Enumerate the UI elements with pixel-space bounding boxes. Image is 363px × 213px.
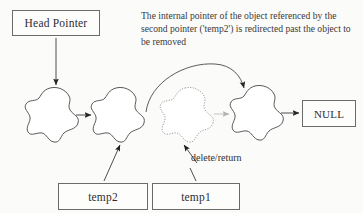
head-pointer-label: Head Pointer bbox=[25, 17, 88, 29]
null-box: NULL bbox=[302, 100, 356, 127]
delete-return-label: delete/return bbox=[191, 152, 242, 163]
node-3-blob-dotted bbox=[160, 87, 213, 142]
temp2-label: temp2 bbox=[88, 191, 118, 203]
temp1-label: temp1 bbox=[181, 191, 211, 203]
node-1-blob bbox=[25, 87, 78, 142]
linked-list-removal-diagram: Head Pointer NULL temp2 temp1 The intern… bbox=[0, 0, 363, 213]
caption: The internal pointer of the object refer… bbox=[141, 9, 357, 49]
arrow-temp2-to-node-2 bbox=[104, 145, 120, 181]
head-pointer-box: Head Pointer bbox=[12, 10, 100, 36]
node-2-blob bbox=[91, 87, 144, 142]
temp2-box: temp2 bbox=[58, 183, 148, 210]
temp1-box: temp1 bbox=[152, 183, 240, 210]
null-label: NULL bbox=[314, 108, 344, 120]
node-4-blob bbox=[230, 85, 283, 140]
arrow-temp1-to-node-3 bbox=[190, 168, 196, 181]
